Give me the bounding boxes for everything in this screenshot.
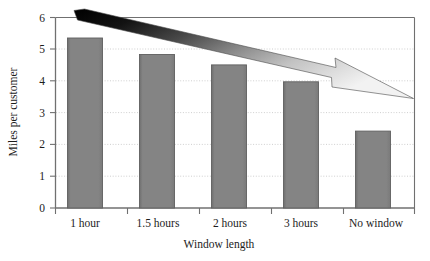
y-tick-label-1: 1 [39,170,45,182]
x-tick-labels: 1 hour 1.5 hours 2 hours 3 hours No wind… [70,217,404,229]
x-tick-label-2: 2 hours [213,217,248,229]
x-tick-label-0: 1 hour [70,217,100,229]
y-tick-label-6: 6 [39,12,45,24]
bar-3 [284,82,319,208]
bar-chart-figure: 0 1 2 3 4 5 6 1 hour 1.5 hours 2 hours 3… [0,0,430,261]
x-tick-label-3: 3 hours [284,217,319,229]
x-tick-label-1: 1.5 hours [137,217,180,229]
x-tick-label-4: No window [349,217,404,229]
bar-1 [140,55,175,209]
y-tick-label-0: 0 [39,202,45,214]
y-tick-marks [50,18,56,209]
y-tick-labels: 0 1 2 3 4 5 6 [39,12,45,214]
x-tick-marks [56,208,415,214]
bar-0 [68,38,103,208]
bar-2 [212,65,247,208]
y-tick-label-4: 4 [39,75,45,87]
y-tick-label-5: 5 [39,43,45,55]
y-tick-label-3: 3 [39,107,45,119]
y-axis-title: Miles per customer [7,67,20,156]
x-axis-title: Window length [184,238,255,251]
y-tick-label-2: 2 [39,138,45,150]
chart-canvas: 0 1 2 3 4 5 6 1 hour 1.5 hours 2 hours 3… [0,0,430,261]
bar-4 [356,131,391,208]
